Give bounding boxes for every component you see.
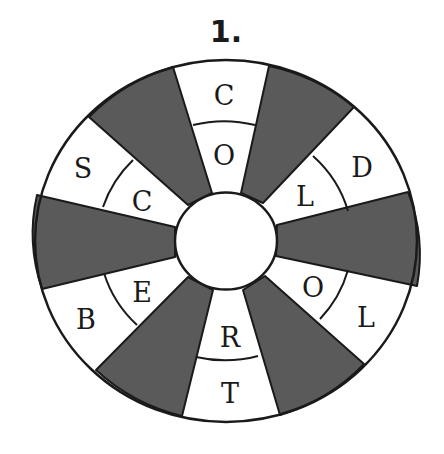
letter-top-outer: C [214, 80, 235, 111]
letter-upper-right-outer: D [351, 152, 373, 183]
letter-upper-left-inner: C [132, 186, 153, 217]
letter-lower-right-outer: L [357, 302, 375, 333]
letter-bottom-inner: R [220, 322, 241, 353]
letter-lower-left-outer: B [76, 304, 96, 335]
wheel-center-hub [175, 193, 277, 290]
letter-wheel: C O D L L O T R B E S C [0, 0, 444, 454]
letter-lower-right-inner: O [302, 272, 324, 303]
letter-lower-left-inner: E [132, 277, 152, 308]
letter-top-inner: O [213, 140, 235, 171]
letter-upper-left-outer: S [74, 153, 93, 184]
letter-upper-right-inner: L [296, 181, 314, 212]
letter-bottom-outer: T [221, 378, 239, 409]
